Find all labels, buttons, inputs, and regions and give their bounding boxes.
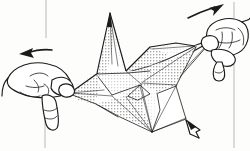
- figure-canvas: [0, 0, 250, 151]
- origami-step-figure: Line drawing of two hands pulling opposi…: [0, 0, 250, 151]
- left-hand-thumb: [59, 84, 75, 97]
